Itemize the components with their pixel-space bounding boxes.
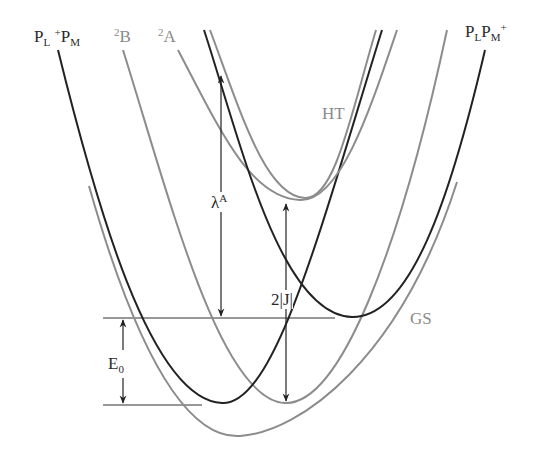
label-two-j: 2|J| <box>271 290 293 309</box>
pl-pm-plus-curve <box>204 30 485 317</box>
state-2b-curve <box>123 30 447 403</box>
label-ht: HT <box>322 105 345 122</box>
label-pl-pm-plus: PLPM+ <box>465 22 507 43</box>
label-state-2b: 2B <box>114 27 131 45</box>
label-state-2a: 2A <box>158 27 176 45</box>
ht-curve <box>210 30 376 198</box>
label-pl-plus-pm: PL +PM <box>34 27 80 48</box>
pl-plus-pm-curve <box>58 30 382 403</box>
label-lambda: λA <box>211 192 227 212</box>
state-2a-curve <box>178 30 397 200</box>
label-e0: E0 <box>108 354 124 376</box>
energy-diagram <box>0 0 542 461</box>
label-gs: GS <box>410 310 432 327</box>
